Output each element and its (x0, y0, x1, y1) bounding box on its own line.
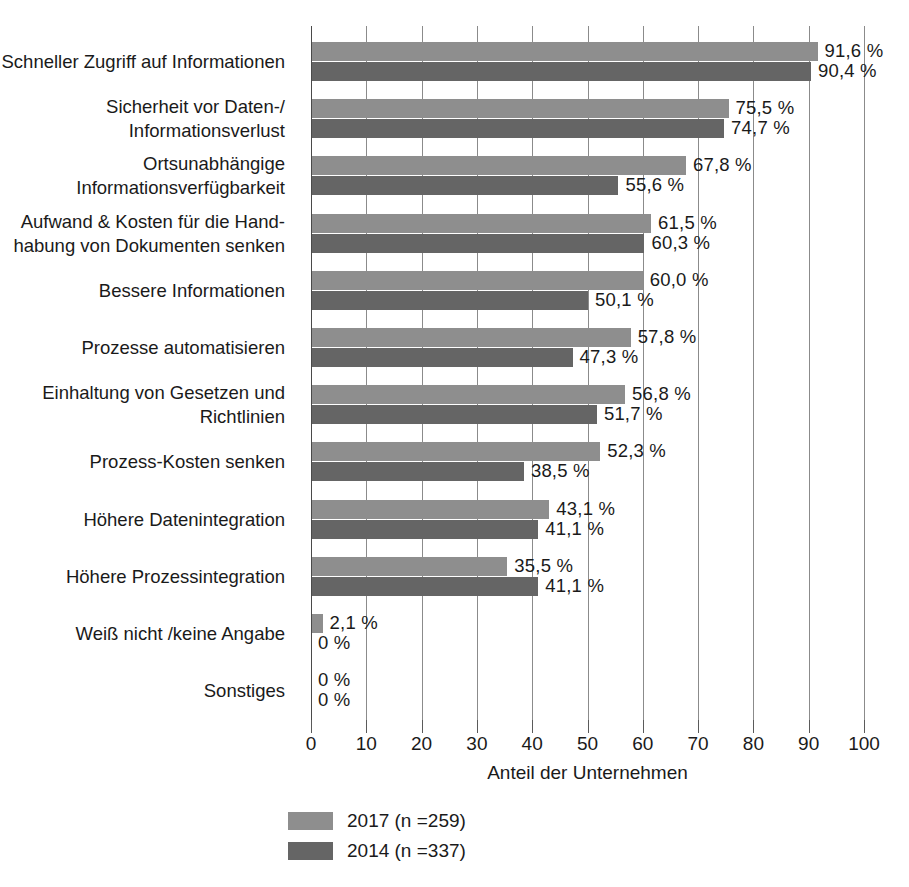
bar-2014 (311, 234, 644, 253)
chart-legend: 2017 (n =259)2014 (n =337) (288, 806, 466, 866)
x-axis-tick-label: 80 (743, 733, 764, 755)
bar-value-label-2017: 56,8 % (632, 384, 691, 403)
bar-2017 (311, 99, 729, 118)
bar-value-label-2014: 41,1 % (545, 519, 604, 538)
x-axis-tick (422, 720, 423, 733)
category-label: Bessere Informationen (0, 279, 298, 303)
bar-group: 91,6 %90,4 % (311, 42, 864, 83)
bar-2017 (311, 156, 686, 175)
bar-group: 2,1 %0 % (311, 614, 864, 655)
bar-group: 52,3 %38,5 % (311, 442, 864, 483)
bar-value-label-2017: 0 % (318, 670, 350, 689)
bar-2017 (311, 328, 631, 347)
bar-group: 75,5 %74,7 % (311, 99, 864, 140)
bar-2017 (311, 500, 549, 519)
bar-value-label-2017: 75,5 % (736, 98, 795, 117)
legend-item: 2017 (n =259) (288, 806, 466, 836)
bar-value-label-2014: 0 % (318, 690, 350, 709)
x-axis-tick-label: 40 (522, 733, 543, 755)
bar-value-label-2014: 0 % (318, 633, 350, 652)
category-label: Einhaltung von Gesetzen und Richtlinien (0, 381, 298, 429)
x-axis-tick (809, 720, 810, 733)
x-axis-tick-label: 100 (848, 733, 880, 755)
bar-value-label-2014: 60,3 % (651, 233, 710, 252)
x-axis-tick (366, 720, 367, 733)
legend-swatch (288, 842, 333, 860)
gridline (864, 26, 865, 720)
x-axis-tick (532, 720, 533, 733)
x-axis-tick-label: 0 (306, 733, 317, 755)
bar-2014 (311, 462, 524, 481)
category-label: Höhere Datenintegration (0, 508, 298, 532)
x-axis-title: Anteil der Unternehmen (311, 762, 864, 784)
legend-label: 2017 (n =259) (347, 810, 466, 832)
bar-value-label-2014: 74,7 % (731, 118, 790, 137)
bar-value-label-2014: 50,1 % (595, 290, 654, 309)
x-axis-tick-label: 20 (411, 733, 432, 755)
bar-group: 60,0 %50,1 % (311, 271, 864, 312)
bar-2014 (311, 405, 597, 424)
bar-2017 (311, 214, 651, 233)
bar-2014 (311, 176, 618, 195)
x-axis-tick (753, 720, 754, 733)
bar-2017 (311, 385, 625, 404)
x-axis-tick-label: 30 (466, 733, 487, 755)
x-axis-tick (698, 720, 699, 733)
category-label: Sonstiges (0, 679, 298, 703)
x-axis-tick (643, 720, 644, 733)
category-label: Weiß nicht /keine Angabe (0, 622, 298, 646)
x-axis-tick-label: 60 (632, 733, 653, 755)
bar-2014 (311, 577, 538, 596)
bar-value-label-2014: 51,7 % (604, 404, 663, 423)
x-axis-tick (588, 720, 589, 733)
bar-value-label-2014: 90,4 % (818, 61, 877, 80)
bar-group: 61,5 %60,3 % (311, 214, 864, 255)
bar-group: 0 %0 % (311, 671, 864, 712)
category-label: Höhere Prozessintegration (0, 565, 298, 589)
bar-group: 43,1 %41,1 % (311, 500, 864, 541)
bar-2017 (311, 614, 323, 633)
bar-2014 (311, 520, 538, 539)
bar-value-label-2017: 91,6 % (825, 41, 884, 60)
bar-group: 56,8 %51,7 % (311, 385, 864, 426)
bar-value-label-2017: 57,8 % (638, 327, 697, 346)
category-label: Schneller Zugriff auf Informationen (0, 50, 298, 74)
bar-2014 (311, 348, 573, 367)
x-axis-tick-label: 70 (688, 733, 709, 755)
x-axis-tick (311, 720, 312, 733)
x-axis-tick (477, 720, 478, 733)
x-axis-tick-labels: 0102030405060708090100 (311, 733, 864, 759)
bar-value-label-2014: 41,1 % (545, 576, 604, 595)
legend-item: 2014 (n =337) (288, 836, 466, 866)
bar-value-label-2017: 61,5 % (658, 213, 717, 232)
legend-swatch (288, 812, 333, 830)
bar-2017 (311, 557, 507, 576)
bar-value-label-2017: 43,1 % (556, 499, 615, 518)
category-label: Prozess-Kosten senken (0, 450, 298, 474)
bar-2014 (311, 119, 724, 138)
category-label: Prozesse automatisieren (0, 336, 298, 360)
bar-chart: Schneller Zugriff auf InformationenSiche… (0, 0, 909, 887)
bar-value-label-2014: 55,6 % (625, 175, 684, 194)
bar-value-label-2017: 2,1 % (330, 613, 378, 632)
bar-value-label-2014: 38,5 % (531, 461, 590, 480)
x-axis-tick-label: 50 (577, 733, 598, 755)
bar-value-label-2017: 60,0 % (650, 270, 709, 289)
bar-2017 (311, 42, 818, 61)
x-axis-tick-label: 10 (356, 733, 377, 755)
category-label: Sicherheit vor Daten-/ Informationsverlu… (0, 95, 298, 143)
bar-group: 67,8 %55,6 % (311, 156, 864, 197)
bar-value-label-2017: 35,5 % (514, 556, 573, 575)
bar-2014 (311, 291, 588, 310)
bar-2017 (311, 442, 600, 461)
y-axis-line (311, 26, 312, 720)
bar-group: 35,5 %41,1 % (311, 557, 864, 598)
category-label: Ortsunabhängige Informationsverfügbarkei… (0, 152, 298, 200)
bar-value-label-2014: 47,3 % (580, 347, 639, 366)
bar-value-label-2017: 67,8 % (693, 155, 752, 174)
category-label: Aufwand & Kosten für die Hand- habung vo… (0, 210, 298, 258)
x-axis-tick (864, 720, 865, 733)
bar-2017 (311, 271, 643, 290)
legend-label: 2014 (n =337) (347, 840, 466, 862)
plot-area: 91,6 %90,4 %75,5 %74,7 %67,8 %55,6 %61,5… (311, 26, 864, 720)
